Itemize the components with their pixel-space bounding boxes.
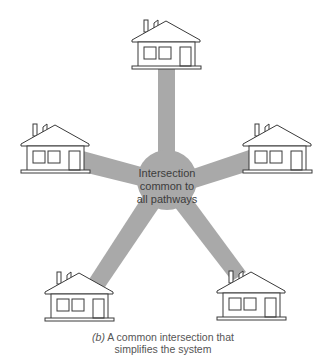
house-left-icon (21, 124, 90, 173)
house-bottom-right-icon (217, 271, 286, 320)
caption-line-1: (b) A common intersection that (0, 331, 326, 343)
caption-line-1-text: A common intersection that (105, 331, 234, 343)
house-right-icon (243, 124, 312, 173)
hub-label-line-3: all pathways (137, 193, 198, 205)
pathway-right (190, 150, 249, 188)
hub-label-line-1: Intersection (139, 167, 196, 179)
pathway-top (158, 66, 175, 161)
hub-label-line-2: common to (140, 180, 194, 192)
pathway-bottom-left (88, 196, 160, 287)
caption-line-2: simplifies the system (0, 343, 326, 355)
house-top-icon (132, 20, 201, 69)
pathway-bottom-right (174, 196, 246, 281)
caption-label: (b) (92, 331, 105, 343)
hub-and-spoke-diagram: Intersection common to all pathways (0, 0, 326, 358)
figure-caption: (b) A common intersection that simplifie… (0, 331, 326, 355)
pathway-left (83, 151, 145, 186)
